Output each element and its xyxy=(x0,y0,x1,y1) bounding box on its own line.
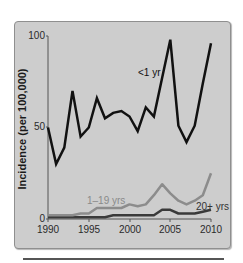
y-tick-50: 50 xyxy=(34,121,46,132)
x-tick-2005: 2005 xyxy=(159,224,182,235)
series-label-20plus: 20+ yrs xyxy=(196,201,229,212)
x-tick-1995: 1995 xyxy=(78,224,101,235)
x-tick-2000: 2000 xyxy=(119,224,142,235)
series-label-lt1: <1 yr xyxy=(138,67,161,78)
x-tick-1990: 1990 xyxy=(37,224,60,235)
y-tick-0: 0 xyxy=(39,213,45,224)
series-label-1-19: 1–19 yrs xyxy=(87,195,125,206)
x-tick-2010: 2010 xyxy=(200,224,223,235)
y-tick-100: 100 xyxy=(28,30,45,41)
series-line-lt1 xyxy=(48,40,211,164)
series-line-1-19 xyxy=(48,173,211,215)
line-chart: 100 50 0 1990 1995 2000 2005 2010 <1 yr … xyxy=(0,0,243,263)
bottom-rule xyxy=(23,258,224,260)
